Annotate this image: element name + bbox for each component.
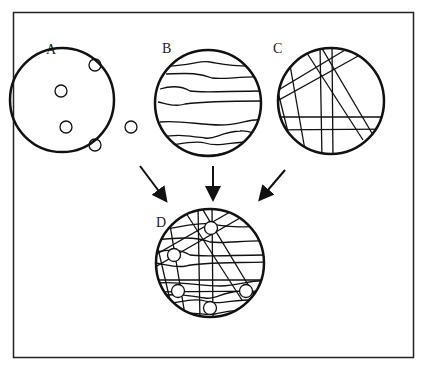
panel-b [155,50,262,156]
arrow-c-to-d [262,170,285,197]
panel-d [150,205,270,322]
arrows [140,166,285,198]
arrow-a-to-d [140,166,164,198]
panel-label-c: C [273,41,282,56]
diagram-figure: A B C D [0,0,426,366]
panel-label-d: D [156,215,166,230]
panel-label-b: B [162,41,171,56]
panel-a [10,48,137,152]
panel-c [270,45,390,160]
